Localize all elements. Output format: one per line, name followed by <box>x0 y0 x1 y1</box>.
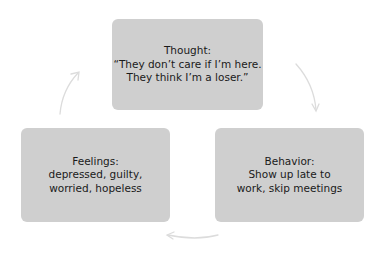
curved-arrow-up-right-icon <box>60 72 79 114</box>
thought-node: Thought: “They don’t care if I’m here. T… <box>112 19 263 110</box>
behavior-line-2: work, skip meetings <box>237 182 343 196</box>
thought-line-1: “They don’t care if I’m here. <box>113 58 261 72</box>
feelings-node: Feelings: depressed, guilty, worried, ho… <box>21 128 170 222</box>
feelings-line-2: worried, hopeless <box>49 182 142 196</box>
curved-arrow-left-icon <box>167 232 218 239</box>
thought-line-2: They think I’m a loser.” <box>126 71 248 85</box>
thought-title: Thought: <box>164 44 211 58</box>
curved-arrow-down-right-icon <box>296 64 319 111</box>
feelings-title: Feelings: <box>72 155 119 169</box>
behavior-line-1: Show up late to <box>248 168 330 182</box>
behavior-title: Behavior: <box>265 155 315 169</box>
behavior-node: Behavior: Show up late to work, skip mee… <box>215 128 364 222</box>
feelings-line-1: depressed, guilty, <box>49 168 143 182</box>
